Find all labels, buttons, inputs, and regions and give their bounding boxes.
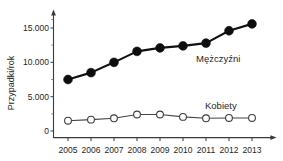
data-point: [180, 114, 187, 121]
y-tick-label-10000: 10.000: [23, 57, 49, 67]
series-label-mezczyzni: Mężczyźni: [196, 53, 240, 64]
x-tick-label-2009: 2009: [151, 145, 170, 155]
x-tick-label-2013: 2013: [243, 145, 262, 155]
x-tick-labels: 2005 2006 2007 2008 2009 2010 2011 2012 …: [59, 145, 262, 155]
y-axis-title: Przypadki/rok: [6, 55, 16, 110]
data-point: [179, 41, 188, 50]
data-point: [226, 115, 233, 122]
data-point: [64, 75, 73, 84]
x-tick-label-2010: 2010: [174, 145, 193, 155]
data-point: [88, 116, 95, 123]
data-point: [157, 111, 164, 118]
data-point: [111, 115, 118, 122]
data-point: [110, 58, 119, 67]
data-point: [248, 19, 257, 28]
x-tick-label-2012: 2012: [220, 145, 239, 155]
data-point: [65, 117, 72, 124]
data-point: [87, 68, 96, 77]
data-point: [156, 44, 165, 53]
chart-container: 0 5.000 10.000 15.000 Przypadki/rok 2005…: [0, 0, 283, 161]
data-point: [134, 111, 141, 118]
series-label-kobiety: Kobiety: [205, 100, 237, 111]
x-tick-label-2006: 2006: [82, 145, 101, 155]
data-point: [249, 115, 256, 122]
line-chart: 0 5.000 10.000 15.000 Przypadki/rok 2005…: [0, 0, 283, 161]
y-tick-label-5000: 5.000: [28, 92, 50, 102]
data-point: [225, 26, 234, 35]
y-tick-label-0: 0: [44, 126, 49, 136]
x-tick-label-2005: 2005: [59, 145, 78, 155]
x-tick-label-2008: 2008: [128, 145, 147, 155]
x-tick-label-2007: 2007: [105, 145, 124, 155]
y-tick-label-15000: 15.000: [23, 23, 49, 33]
data-point: [202, 39, 211, 48]
data-point: [203, 115, 210, 122]
data-point: [133, 47, 142, 56]
x-tick-label-2011: 2011: [197, 145, 216, 155]
